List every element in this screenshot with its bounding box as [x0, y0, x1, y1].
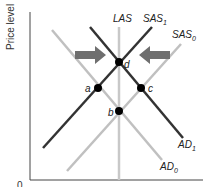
label-sas0: SAS0 [172, 29, 196, 42]
label-ad0: AD0 [159, 161, 178, 174]
y-axis-label: Price level [5, 4, 16, 50]
label-a: a [85, 83, 91, 94]
label-ad1: AD1 [177, 139, 196, 152]
point-c [137, 84, 145, 92]
label-c: c [148, 83, 153, 94]
label-d: d [124, 59, 130, 70]
ad-as-diagram: d a c b LAS SAS1 SAS0 AD1 AD0 Price leve… [0, 0, 207, 187]
point-a [94, 84, 102, 92]
point-d [115, 58, 123, 66]
origin-label: 0 [17, 180, 23, 187]
label-b: b [108, 107, 114, 118]
label-las: LAS [113, 13, 132, 24]
label-sas1: SAS1 [143, 13, 167, 26]
point-b [115, 107, 123, 115]
